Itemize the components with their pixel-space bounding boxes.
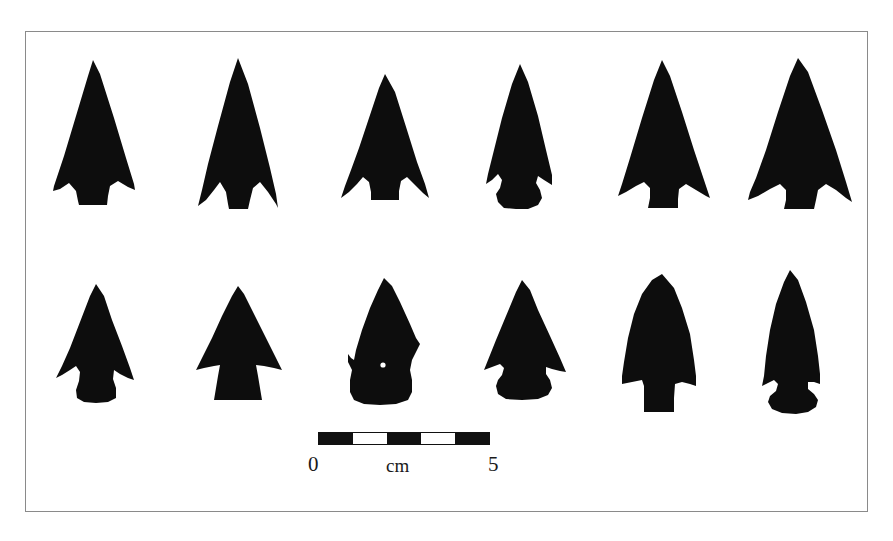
scale-bar	[318, 432, 490, 446]
scale-label-unit: cm	[386, 456, 409, 475]
scale-bar-segments	[318, 432, 490, 445]
figure-plate: 0 cm 5	[0, 0, 893, 541]
scale-segment-1	[319, 433, 353, 444]
scale-segment-4	[421, 433, 455, 444]
scale-segment-5	[455, 433, 489, 444]
scale-bar-labels: 0 cm 5	[300, 450, 510, 480]
scale-label-start: 0	[308, 454, 319, 475]
scale-label-end: 5	[488, 454, 499, 475]
scale-segment-2	[353, 433, 387, 444]
scale-segment-3	[387, 433, 421, 444]
